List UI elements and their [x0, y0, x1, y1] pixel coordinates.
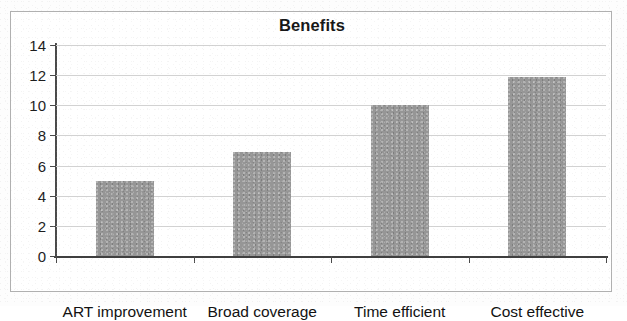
y-axis-label-0: 0	[38, 248, 46, 265]
plot-area: 02468101214 ART improvementBroad coverag…	[56, 45, 606, 256]
category-label-cost-effective: Cost effective	[490, 303, 584, 321]
x-axis-tick-4	[606, 256, 607, 263]
bar-cost-effective	[508, 77, 566, 256]
y-axis-label-8: 8	[38, 127, 46, 144]
x-axis-tick-0	[56, 256, 57, 263]
category-label-time-efficient: Time efficient	[354, 303, 445, 321]
bar-broad-coverage	[233, 152, 291, 256]
y-tick-14	[50, 45, 56, 46]
gridline-14	[56, 45, 606, 46]
y-tick-8	[50, 135, 56, 136]
category-label-art-improvement: ART improvement	[63, 303, 187, 321]
x-axis-tick-3	[469, 256, 470, 263]
bar-time-efficient	[371, 105, 429, 256]
y-axis-label-10: 10	[29, 97, 46, 114]
y-tick-6	[50, 166, 56, 167]
x-axis-tick-1	[194, 256, 195, 263]
category-label-broad-coverage: Broad coverage	[208, 303, 317, 321]
y-axis-label-12: 12	[29, 67, 46, 84]
y-axis-label-4: 4	[38, 187, 46, 204]
y-tick-10	[50, 105, 56, 106]
y-tick-4	[50, 196, 56, 197]
y-axis-label-2: 2	[38, 217, 46, 234]
y-axis-label-6: 6	[38, 157, 46, 174]
bar-art-improvement	[96, 181, 154, 256]
x-axis-tick-2	[331, 256, 332, 263]
y-axis-label-14: 14	[29, 37, 46, 54]
chart-frame: Benefits 02468101214 ART improvementBroa…	[10, 11, 612, 292]
y-tick-2	[50, 226, 56, 227]
chart-title: Benefits	[11, 16, 613, 35]
y-tick-12	[50, 75, 56, 76]
